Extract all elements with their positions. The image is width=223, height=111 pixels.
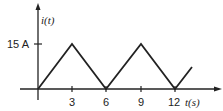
x-tick-label-6: 6 bbox=[103, 96, 109, 108]
y-tick-label: 15 A bbox=[7, 38, 30, 50]
x-tick-label-12: 12 bbox=[168, 96, 180, 108]
x-axis-label: t(s) bbox=[185, 96, 200, 109]
y-axis-arrow-icon bbox=[36, 3, 41, 10]
x-tick-label-9: 9 bbox=[138, 96, 144, 108]
y-axis-label: i(t) bbox=[41, 14, 55, 27]
x-tick-label-3: 3 bbox=[69, 96, 75, 108]
x-axis-arrow-icon bbox=[214, 87, 222, 92]
current-waveform bbox=[38, 44, 192, 89]
triangle-wave-chart: i(t) 15 A 3 6 9 12 t(s) bbox=[0, 0, 223, 111]
